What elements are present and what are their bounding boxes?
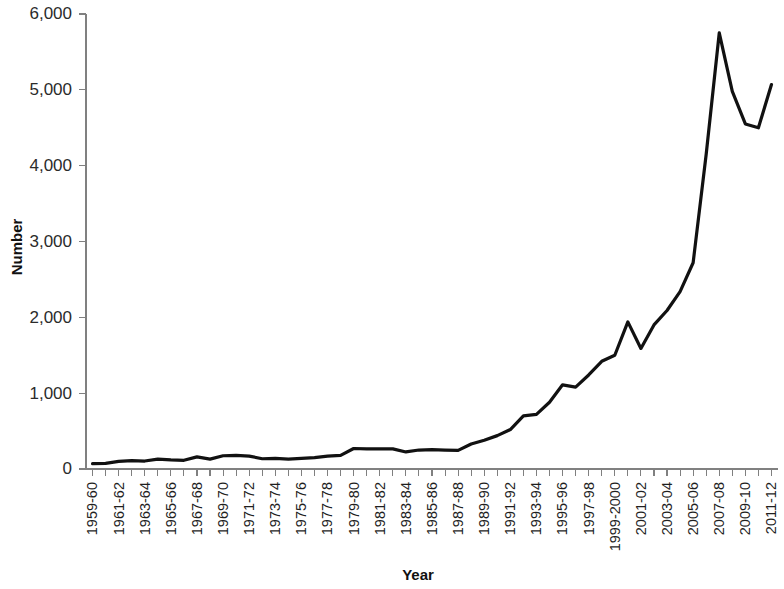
x-tick-label: 1991-92	[502, 482, 518, 535]
x-tick-label: 2011-12	[763, 482, 779, 534]
x-tick-label: 1979-80	[346, 482, 362, 535]
x-tick-label: 1987-88	[450, 482, 466, 535]
x-tick-label: 1961-62	[111, 482, 127, 535]
y-axis-group: 01,0002,0003,0004,0005,0006,000	[29, 4, 86, 478]
x-tick-label: 1969-70	[215, 482, 231, 535]
x-tick-label: 1981-82	[372, 482, 388, 535]
x-tick-label: 1983-84	[398, 482, 414, 535]
line-chart: 01,0002,0003,0004,0005,0006,000 1959-601…	[0, 0, 784, 589]
y-axis-tick-labels: 01,0002,0003,0004,0005,0006,000	[29, 4, 72, 478]
x-tick-label: 2007-08	[711, 482, 727, 535]
chart-container: 01,0002,0003,0004,0005,0006,000 1959-601…	[0, 0, 784, 589]
x-tick-label: 1959-60	[84, 482, 100, 535]
x-tick-label: 1967-68	[189, 482, 205, 535]
y-tick-label: 4,000	[29, 156, 72, 175]
y-tick-label: 0	[63, 459, 72, 478]
x-tick-label: 2001-02	[633, 482, 649, 535]
x-tick-label: 1963-64	[137, 482, 153, 535]
x-tick-label: 1975-76	[293, 482, 309, 535]
x-tick-label: 2003-04	[659, 482, 675, 535]
x-axis-tick-labels: 1959-601961-621963-641965-661967-681969-…	[84, 482, 779, 551]
y-tick-label: 3,000	[29, 232, 72, 251]
y-tick-label: 2,000	[29, 308, 72, 327]
x-tick-label: 1989-90	[476, 482, 492, 535]
x-tick-label: 1993-94	[528, 482, 544, 535]
x-axis-group: 1959-601961-621963-641965-661967-681969-…	[84, 469, 779, 551]
y-axis-ticks	[79, 14, 86, 469]
x-axis-title: Year	[402, 566, 434, 583]
y-axis-title: Number	[8, 219, 25, 276]
x-tick-label: 1999-2000	[607, 482, 623, 551]
y-tick-label: 6,000	[29, 4, 72, 23]
x-tick-label: 1997-98	[581, 482, 597, 535]
x-tick-label: 1965-66	[163, 482, 179, 535]
x-tick-label: 2009-10	[737, 482, 753, 535]
x-tick-label: 1985-86	[424, 482, 440, 535]
x-tick-label: 1995-96	[554, 482, 570, 535]
x-tick-label: 1977-78	[319, 482, 335, 535]
y-tick-label: 1,000	[29, 384, 72, 403]
y-tick-label: 5,000	[29, 80, 72, 99]
data-series-line	[93, 33, 772, 464]
x-axis-ticks	[93, 469, 772, 476]
x-tick-label: 2005-06	[685, 482, 701, 535]
x-tick-label: 1973-74	[267, 482, 283, 535]
x-tick-label: 1971-72	[241, 482, 257, 535]
